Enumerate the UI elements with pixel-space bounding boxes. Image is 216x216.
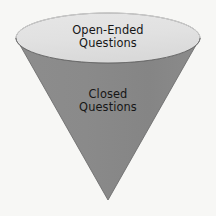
section-label-closed: Closed Questions <box>0 88 216 115</box>
section-label-open-ended: Open-Ended Questions <box>0 24 216 51</box>
label-line-closed-2: Questions <box>0 101 216 114</box>
label-line-open-1: Open-Ended <box>0 24 216 37</box>
diagram-canvas: Open-Ended Questions Closed Questions <box>0 0 216 216</box>
label-line-open-2: Questions <box>0 37 216 50</box>
label-line-closed-1: Closed <box>0 88 216 101</box>
